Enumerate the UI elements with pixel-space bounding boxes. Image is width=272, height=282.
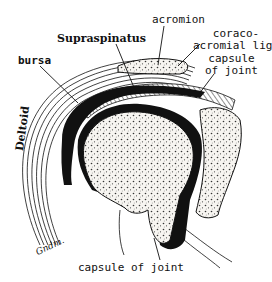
label-capsule-of-joint-bottom: capsule of joint — [78, 262, 184, 273]
label-capsule-of-joint-right: capsule of joint — [205, 53, 258, 77]
label-coracoacromial-ligament: coraco- acromial lig. — [193, 28, 272, 52]
label-capsule-right-line2: of joint — [205, 65, 258, 77]
shoulder-joint-diagram: acromion Supraspinatus bursa coraco- acr… — [0, 0, 272, 282]
label-coracoacromial-line2: acromial lig. — [193, 40, 272, 52]
glenoid-scapula — [196, 108, 241, 218]
label-bursa: bursa — [18, 55, 51, 66]
acromion-bone — [118, 59, 188, 74]
label-acromion: acromion — [152, 14, 205, 25]
label-supraspinatus: Supraspinatus — [57, 33, 146, 44]
